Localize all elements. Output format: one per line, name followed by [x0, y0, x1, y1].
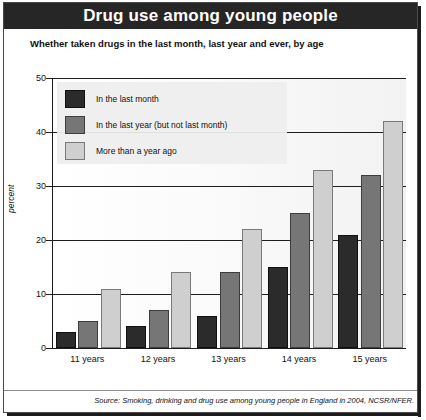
bar — [171, 272, 191, 348]
x-axis-tick-label: 15 years — [352, 354, 387, 364]
legend-item-label: More than a year ago — [96, 146, 177, 156]
bar — [78, 321, 98, 348]
chart-plot-area: percent 01020304050 11 years12 years13 y… — [0, 0, 426, 420]
bar — [149, 310, 169, 348]
y-axis-tick-label: 40 — [20, 127, 46, 137]
x-axis-tick-label: 12 years — [141, 354, 176, 364]
x-axis-tick-label: 13 years — [211, 354, 246, 364]
chart-figure: Drug use among young people Whether take… — [0, 0, 426, 420]
chart-legend: In the last month In the last year (but … — [57, 82, 287, 164]
bar — [242, 229, 262, 348]
legend-swatch-icon — [65, 116, 85, 134]
x-axis-tick-label: 11 years — [70, 354, 104, 364]
bar — [313, 170, 333, 348]
legend-item: In the last month — [57, 86, 287, 112]
y-axis-tick-label: 30 — [20, 181, 46, 191]
y-axis-tick-label: 0 — [20, 343, 46, 353]
bar — [383, 121, 403, 348]
bar — [126, 326, 146, 348]
y-axis-tick-label: 10 — [20, 289, 46, 299]
bar — [361, 175, 381, 348]
bar — [338, 235, 358, 348]
bar — [220, 272, 240, 348]
legend-item-label: In the last year (but not last month) — [96, 120, 227, 130]
legend-item-label: In the last month — [96, 94, 159, 104]
bar — [56, 332, 76, 348]
source-divider — [4, 390, 417, 391]
legend-swatch-icon — [65, 142, 85, 160]
y-axis-tick-label: 20 — [20, 235, 46, 245]
x-axis-tick-label: 14 years — [282, 354, 317, 364]
legend-item: In the last year (but not last month) — [57, 112, 287, 138]
bar — [268, 267, 288, 348]
y-axis-tick-label: 50 — [20, 73, 46, 83]
y-axis-label: percent — [6, 185, 16, 213]
bar — [197, 316, 217, 348]
legend-item: More than a year ago — [57, 138, 287, 164]
bar — [290, 213, 310, 348]
source-note: Source: Smoking, drinking and drug use a… — [94, 396, 414, 405]
bar — [101, 289, 121, 348]
legend-swatch-icon — [65, 90, 85, 108]
